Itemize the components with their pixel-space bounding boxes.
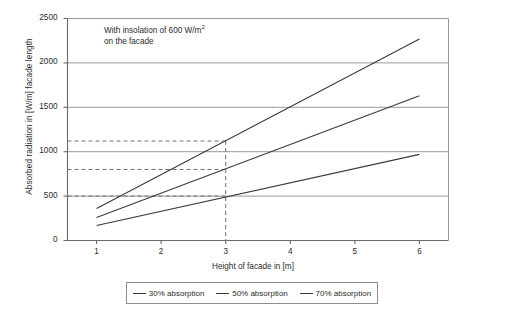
- series-line-70-absorption: [97, 39, 420, 209]
- legend-label-70: 70% absorption: [316, 289, 372, 298]
- legend-label-50: 50% absorption: [232, 289, 288, 298]
- plot-area: [0, 0, 506, 316]
- y-tick-label-2500: 2500: [24, 13, 58, 22]
- y-tick-label-500: 500: [24, 191, 58, 200]
- x-tick-label-5: 5: [345, 247, 365, 256]
- y-tick-label-2000: 2000: [24, 57, 58, 66]
- legend-item-30: 30% absorption: [133, 289, 205, 298]
- y-tick-label-1500: 1500: [24, 102, 58, 111]
- x-tick-label-2: 2: [151, 247, 171, 256]
- x-tick-label-3: 3: [216, 247, 236, 256]
- x-tick-label-4: 4: [280, 247, 300, 256]
- y-tick-label-0: 0: [24, 235, 58, 244]
- x-tick-label-1: 1: [87, 247, 107, 256]
- legend-item-70: 70% absorption: [300, 289, 372, 298]
- x-tick-label-6: 6: [409, 247, 429, 256]
- chart-legend: 30% absorption 50% absorption 70% absorp…: [126, 282, 378, 304]
- series-line-50-absorption: [97, 96, 420, 218]
- legend-label-30: 30% absorption: [149, 289, 205, 298]
- legend-item-50: 50% absorption: [216, 289, 288, 298]
- chart-figure: Absorbed radiation in [W/m] facade lengt…: [0, 0, 506, 316]
- y-tick-label-1000: 1000: [24, 146, 58, 155]
- legend-swatch-50-icon: [216, 293, 229, 294]
- series-line-30-absorption: [97, 154, 420, 225]
- legend-swatch-30-icon: [133, 293, 146, 294]
- legend-swatch-70-icon: [300, 293, 313, 294]
